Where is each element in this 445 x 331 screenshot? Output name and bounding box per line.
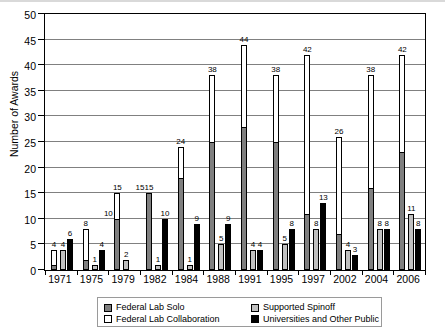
x-tick-label: 2002 xyxy=(329,274,361,285)
bar-federal-lab-solo xyxy=(114,219,120,270)
x-tick-label: 1971 xyxy=(44,274,76,285)
bar-value-label: 24 xyxy=(174,138,188,146)
bar-groups: 4468141510215151102419385944443858428132… xyxy=(45,14,425,270)
chart-root: Number of Awards 05101520253035404550 44… xyxy=(0,0,445,331)
bar-group: 1515110 xyxy=(140,14,172,270)
y-tick-mark xyxy=(38,141,44,142)
bar-value-label: 42 xyxy=(300,46,314,54)
x-tick-mark xyxy=(362,271,363,275)
bar-supported-spinoff xyxy=(218,244,224,270)
x-axis-tick-labels: 1971197519791982198419881991199519972002… xyxy=(45,274,425,288)
x-tick-label: 2006 xyxy=(392,274,424,285)
y-tick-label: 45 xyxy=(24,36,36,46)
legend-label-spin: Supported Spinoff xyxy=(263,302,335,312)
bar-group: 2419 xyxy=(172,14,204,270)
bar-group: 3858 xyxy=(267,14,299,270)
chart-legend: Federal Lab SoloSupported SpinoffFederal… xyxy=(97,297,382,327)
bar-supported-spinoff xyxy=(123,260,129,270)
x-tick-mark xyxy=(172,271,173,275)
y-tick-mark xyxy=(38,90,44,91)
y-tick-label: 20 xyxy=(24,164,36,174)
bar-group: 42813 xyxy=(298,14,330,270)
y-tick-label: 5 xyxy=(30,240,36,250)
x-tick-label: 1988 xyxy=(202,274,234,285)
bar-supported-spinoff xyxy=(155,265,161,270)
bar-value-label: 2 xyxy=(119,251,133,259)
y-tick-mark xyxy=(38,115,44,116)
bar-value-label: 38 xyxy=(269,66,283,74)
legend-swatch-solo xyxy=(104,304,112,312)
bar-universities-and-other-public xyxy=(257,250,263,270)
bar-value-label: 5 xyxy=(214,235,228,243)
bar-value-label: 10 xyxy=(158,210,172,218)
y-tick-mark xyxy=(38,243,44,244)
bar-value-label: 5 xyxy=(278,235,292,243)
bar-universities-and-other-public xyxy=(320,203,326,270)
legend-label-solo: Federal Lab Solo xyxy=(116,302,185,312)
y-tick-label: 50 xyxy=(24,10,36,20)
bar-federal-lab-solo xyxy=(273,142,279,270)
bar-group: 446 xyxy=(45,14,77,270)
y-tick-mark xyxy=(38,13,44,14)
bar-universities-and-other-public xyxy=(352,255,358,270)
bar-federal-lab-solo xyxy=(336,234,342,270)
x-tick-mark xyxy=(267,271,268,275)
bar-federal-lab-solo xyxy=(51,265,57,270)
bar-value-label: 11 xyxy=(404,205,418,213)
x-tick-label: 1991 xyxy=(234,274,266,285)
bar-universities-and-other-public xyxy=(225,224,231,270)
y-tick-label: 10 xyxy=(24,215,36,225)
legend-label-collab: Federal Lab Collaboration xyxy=(116,314,220,324)
x-tick-label: 1997 xyxy=(297,274,329,285)
bar-group: 3859 xyxy=(203,14,235,270)
bar-value-label: 4 xyxy=(95,241,109,249)
x-tick-mark xyxy=(140,271,141,275)
y-tick-mark xyxy=(38,269,44,270)
y-tick-mark xyxy=(38,39,44,40)
bar-value-label: 8 xyxy=(285,220,299,228)
bar-supported-spinoff xyxy=(92,265,98,270)
bar-value-label: 8 xyxy=(411,220,425,228)
x-tick-mark xyxy=(45,271,46,275)
bar-value-label: 8 xyxy=(380,220,394,228)
bar-value-label: 8 xyxy=(309,220,323,228)
bar-value-label: 9 xyxy=(190,215,204,223)
bar-group: 42118 xyxy=(393,14,425,270)
x-tick-mark xyxy=(235,271,236,275)
x-tick-label: 1982 xyxy=(139,274,171,285)
x-tick-label: 1975 xyxy=(76,274,108,285)
bar-group: 4444 xyxy=(235,14,267,270)
bar-supported-spinoff xyxy=(282,244,288,270)
y-tick-label: 15 xyxy=(24,189,36,199)
bar-value-label: 10 xyxy=(101,210,115,218)
bar-value-label: 4 xyxy=(56,241,70,249)
bar-universities-and-other-public xyxy=(415,229,421,270)
x-tick-mark xyxy=(425,271,426,275)
bar-value-label: 6 xyxy=(63,230,77,238)
y-tick-label: 25 xyxy=(24,138,36,148)
bar-value-label: 15 xyxy=(110,184,124,192)
x-tick-label: 2004 xyxy=(361,274,393,285)
bar-value-label: 13 xyxy=(316,194,330,202)
x-tick-mark xyxy=(298,271,299,275)
bar-supported-spinoff xyxy=(250,250,256,270)
bar-group: 3888 xyxy=(362,14,394,270)
bar-value-label: 42 xyxy=(395,46,409,54)
x-tick-mark xyxy=(330,271,331,275)
bar-group: 15102 xyxy=(108,14,140,270)
x-tick-label: 1995 xyxy=(266,274,298,285)
x-tick-label: 1979 xyxy=(107,274,139,285)
bar-value-label: 26 xyxy=(332,128,346,136)
x-tick-mark xyxy=(108,271,109,275)
bar-value-label: 15 xyxy=(133,184,147,192)
y-axis-tick-labels: 05101520253035404550 xyxy=(0,13,40,271)
bar-value-label: 1 xyxy=(88,256,102,264)
x-tick-label: 1984 xyxy=(171,274,203,285)
bar-supported-spinoff xyxy=(187,265,193,270)
bar-group: 2643 xyxy=(330,14,362,270)
legend-swatch-spin xyxy=(251,304,259,312)
bar-supported-spinoff xyxy=(377,229,383,270)
bar-value-label: 38 xyxy=(364,66,378,74)
bar-supported-spinoff xyxy=(313,229,319,270)
x-tick-mark xyxy=(203,271,204,275)
